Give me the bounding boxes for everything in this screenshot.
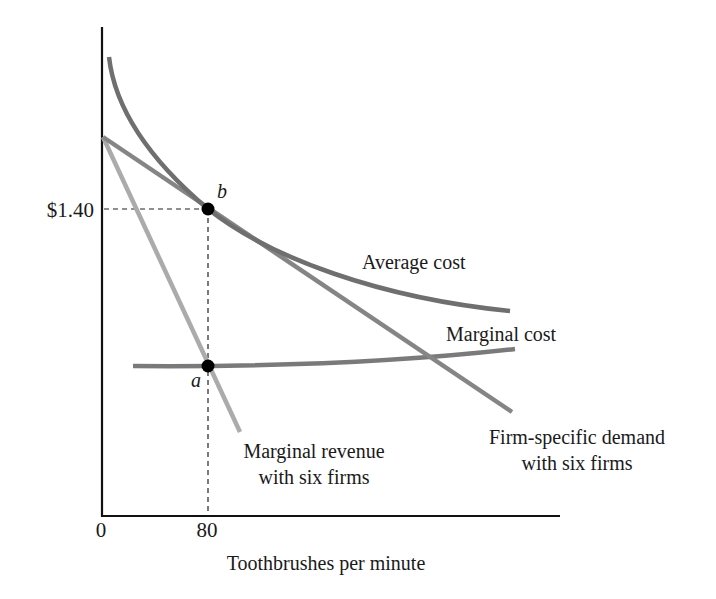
marginal-cost-label: Marginal cost (446, 323, 557, 346)
x-tick-label-80: 80 (197, 518, 218, 542)
average-cost-label: Average cost (362, 251, 466, 274)
demand-label-line1: Firm-specific demand (489, 426, 665, 449)
x-axis-title: Toothbrushes per minute (227, 552, 426, 575)
point-b-label: b (217, 180, 227, 202)
marginal-cost-curve (133, 349, 515, 366)
point-a-label: a (191, 369, 201, 391)
monopolistic-competition-chart: b a $1.40 0 80 Toothbrushes per minute A… (0, 0, 716, 599)
demand-label-line2: with six firms (521, 452, 632, 474)
point-b (202, 203, 215, 216)
point-a (202, 360, 215, 373)
y-tick-label: $1.40 (47, 198, 94, 222)
x-tick-label-0: 0 (96, 518, 107, 542)
marginal-revenue-label-line2: with six firms (258, 466, 369, 488)
demand-curve (103, 137, 512, 412)
marginal-revenue-label-line1: Marginal revenue (243, 440, 384, 463)
